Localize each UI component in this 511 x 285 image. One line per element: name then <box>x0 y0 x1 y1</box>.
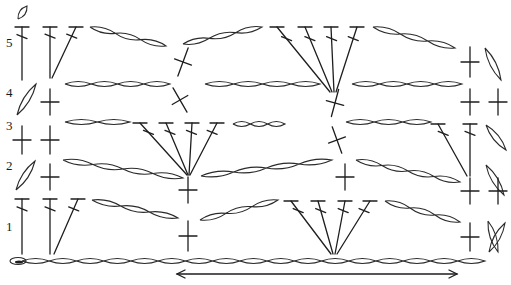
chain-group-row-3 <box>346 120 431 125</box>
chain-stitch-icon <box>118 82 144 87</box>
double-crochet-icon <box>431 124 467 176</box>
row-label-1: 1 <box>6 220 13 233</box>
chain-stitch-icon <box>434 176 460 182</box>
chain-group-row-5 <box>183 27 262 45</box>
chain-group-row-2 <box>63 159 183 178</box>
chain-stitch-icon <box>374 120 402 125</box>
chain-stitch-icon <box>431 259 458 264</box>
chain-stitches <box>63 27 462 223</box>
single-crochet-icon <box>169 45 196 79</box>
chain-stitch-icon <box>403 120 431 125</box>
chain-stitch-icon <box>201 171 234 177</box>
direction-arrow <box>177 270 457 278</box>
single-crochet-icon <box>323 87 348 119</box>
single-crochet-icon <box>324 124 350 156</box>
chain-stitch-icon <box>322 259 349 264</box>
chain-stitch-icon <box>226 206 252 213</box>
chain-stitch-icon <box>65 82 91 87</box>
double-crochet-icon <box>43 199 57 254</box>
double-crochet-icon <box>15 199 29 254</box>
chain-stitch-icon <box>435 82 463 87</box>
chain-stitch-icon <box>185 259 212 264</box>
chain-stitch-icon <box>263 82 292 87</box>
chain-group-row-5 <box>373 27 455 48</box>
chain-stitch-icon <box>268 122 285 127</box>
single-crochet-icon <box>461 223 479 251</box>
chain-group-row-4 <box>352 82 462 87</box>
chain-stitch-icon <box>349 259 376 264</box>
single-crochet-icon <box>461 89 479 115</box>
crochet-chart: 5 4 3 2 1 <box>0 0 511 285</box>
chain-stitch-icon <box>352 82 380 87</box>
single-crochet-icon <box>41 126 59 154</box>
chain-stitch-icon <box>91 82 117 87</box>
foundation-chain-row <box>22 259 485 264</box>
turning-chain-icon <box>16 161 35 190</box>
double-crochet-icon <box>185 123 199 175</box>
chain-stitch-icon <box>200 213 226 220</box>
single-crochet-icon <box>41 89 59 115</box>
slip-knot-fill <box>15 261 23 264</box>
chain-stitch-icon <box>299 159 332 165</box>
chain-stitch-icon <box>236 27 262 34</box>
chain-stitch-icon <box>93 164 123 170</box>
chain-stitch-icon <box>403 259 430 264</box>
chain-stitch-icon <box>356 160 382 166</box>
single-crochet-icon <box>489 178 507 204</box>
chain-stitch-icon <box>90 27 115 34</box>
chain-stitch-icon <box>115 33 140 40</box>
chain-stitch-icon <box>435 215 460 222</box>
single-crochet-stitches <box>13 45 507 251</box>
turning-chain-icon <box>485 48 501 80</box>
chain-stitch-icon <box>428 41 455 48</box>
chain-stitch-icon <box>123 168 153 174</box>
single-crochet-icon <box>461 47 479 77</box>
double-crochet-icon <box>324 27 338 92</box>
chain-stitch-icon <box>291 82 320 87</box>
single-crochet-icon <box>179 177 197 203</box>
turning-chain-icon <box>17 84 36 115</box>
double-crochet-icon <box>54 199 85 254</box>
chain-stitch-icon <box>92 200 121 207</box>
double-crochet-icon <box>15 27 29 80</box>
chain-stitch-icon <box>408 171 434 177</box>
chain-group-row-4 <box>65 82 170 87</box>
chain-group-row-4 <box>205 82 320 87</box>
single-crochet-icon <box>41 164 59 190</box>
double-crochet-stitches <box>15 27 477 254</box>
chain-group-row-2 <box>201 159 332 177</box>
row-label-4: 4 <box>6 86 13 99</box>
chain-stitch-icon <box>250 122 267 127</box>
chain-stitch-icon <box>376 259 403 264</box>
row-label-5: 5 <box>6 36 13 49</box>
turning-chain-icon <box>18 6 27 19</box>
row-label-3: 3 <box>6 119 13 132</box>
chain-stitch-icon <box>183 38 209 45</box>
chain-stitch-icon <box>407 82 435 87</box>
row-label-2: 2 <box>6 159 13 172</box>
chain-stitch-icon <box>121 206 150 213</box>
chain-stitch-icon <box>131 259 158 264</box>
chain-stitch-icon <box>380 82 408 87</box>
chain-stitch-icon <box>385 201 410 208</box>
chain-group-row-2 <box>356 160 460 183</box>
chain-stitch-icon <box>149 212 178 219</box>
double-crochet-icon <box>311 201 333 254</box>
chain-stitch-icon <box>104 259 131 264</box>
chain-group-row-1 <box>92 200 178 219</box>
turning-chain-icon <box>489 223 505 252</box>
chain-stitch-icon <box>240 259 267 264</box>
double-crochet-icon <box>190 123 224 175</box>
single-crochet-icon <box>336 164 354 190</box>
chain-stitch-icon <box>49 259 76 264</box>
foundation-chain <box>10 258 485 265</box>
chain-group-row-5 <box>90 27 166 47</box>
chain-stitch-icon <box>346 120 374 125</box>
chain-stitch-icon <box>373 27 400 34</box>
chain-stitch-icon <box>213 259 240 264</box>
single-crochet-icon <box>461 178 479 204</box>
chain-stitch-icon <box>400 34 427 41</box>
chain-stitch-icon <box>76 259 103 264</box>
chain-stitch-icon <box>205 82 234 87</box>
chain-stitch-icon <box>294 259 321 264</box>
